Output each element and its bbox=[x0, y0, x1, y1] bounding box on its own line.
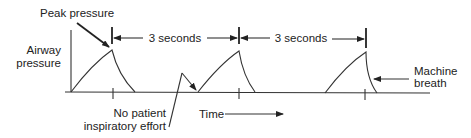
breath-3-waveform bbox=[325, 52, 377, 93]
breath-1-waveform bbox=[71, 50, 135, 92]
x-axis-baseline bbox=[65, 92, 430, 93]
peak-pressure-label: Peak pressure bbox=[40, 7, 114, 19]
no-effort-label-line1: No patient bbox=[114, 107, 167, 119]
machine-breath-label-line1: Machine bbox=[414, 65, 457, 77]
interval-2-label: 3 seconds bbox=[275, 32, 328, 44]
y-axis-label-line2: pressure bbox=[16, 57, 61, 69]
time-axis-label: Time bbox=[199, 108, 224, 120]
breath-2-waveform bbox=[198, 51, 255, 92]
peak-pressure-arrow bbox=[77, 23, 109, 47]
no-effort-pointer-line bbox=[169, 73, 182, 127]
machine-breath-label-line2: breath bbox=[414, 77, 447, 89]
no-effort-arrow bbox=[182, 73, 196, 90]
pressure-waveform-diagram: Peak pressure Airway pressure 3 seconds … bbox=[0, 0, 471, 138]
no-effort-label-line2: inspiratory effort bbox=[84, 120, 167, 132]
y-axis-label-line1: Airway bbox=[26, 44, 61, 56]
interval-1-label: 3 seconds bbox=[149, 32, 202, 44]
